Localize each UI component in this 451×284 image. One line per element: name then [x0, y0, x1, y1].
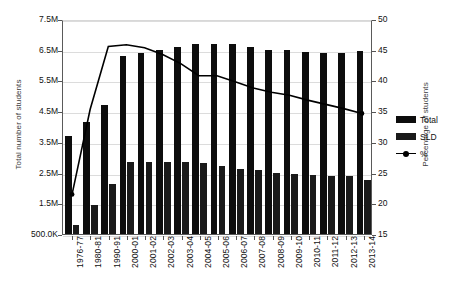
x-axis-tick-label: 2010-11 — [312, 236, 322, 267]
legend-item[interactable]: Total — [396, 112, 451, 127]
plot-area — [62, 20, 372, 235]
y-axis-right-tick-label: 25 — [378, 169, 387, 178]
y-axis-right-tick-label: 50 — [378, 15, 387, 24]
y-axis-left-tick-label: 5.5M — [8, 76, 58, 85]
legend-swatch-icon — [396, 133, 416, 140]
y-axis-left-tick-label: 500.0K — [8, 230, 58, 239]
x-axis-tick-label: 2007-08 — [257, 236, 267, 268]
percent-line-series — [63, 21, 371, 234]
y-axis-right-tick-label: 30 — [378, 138, 387, 147]
y-axis-left-tick-label: 1.5M — [8, 199, 58, 208]
y-axis-right-tick-label: 40 — [378, 76, 387, 85]
y-axis-left-tick-label: 3.5M — [8, 138, 58, 147]
y-axis-right-tick-label: 15 — [378, 230, 387, 239]
y-axis-left-tick-label: 6.5M — [8, 46, 58, 55]
y-axis-right-tick-label: 45 — [378, 46, 387, 55]
x-axis-tick-labels: 1976-771980-811990-912000-012001-022002-… — [62, 236, 372, 284]
x-axis-tick-label: 2005-06 — [221, 236, 231, 268]
x-axis-tick-label: 2004-05 — [203, 236, 213, 268]
x-axis-tick-label: 2008-09 — [276, 236, 286, 268]
legend-line-marker-icon — [396, 149, 416, 158]
legend-swatch-icon — [396, 116, 416, 123]
x-axis-tick-label: 1980-81 — [93, 236, 103, 268]
percent-line-path — [72, 45, 362, 195]
x-axis-tick-label: 2000-01 — [130, 236, 140, 268]
legend-item-label: Total — [420, 115, 438, 125]
chart-container: Total number of students Percentage of s… — [0, 0, 451, 284]
y-axis-left-tick-label: 4.5M — [8, 107, 58, 116]
chart-legend: TotalSLD% — [396, 112, 451, 163]
y-axis-right-tick-label: 20 — [378, 199, 387, 208]
legend-item[interactable]: % — [396, 146, 451, 161]
legend-item-label: % — [420, 149, 428, 159]
x-axis-tick-label: 2003-04 — [185, 236, 195, 268]
y-axis-right-tick-label: 35 — [378, 107, 387, 116]
x-axis-tick-label: 2009-10 — [294, 236, 304, 268]
x-axis-tick-label: 1990-91 — [112, 236, 122, 268]
legend-item-label: SLD — [420, 132, 437, 142]
y-axis-left-tick-label: 2.5M — [8, 169, 58, 178]
x-axis-tick-label: 2001-02 — [148, 236, 158, 268]
x-axis-tick-label: 2006-07 — [239, 236, 249, 268]
x-axis-tick-label: 2013-14 — [367, 236, 377, 268]
percent-marker — [360, 111, 365, 116]
x-axis-tick-label: 2011-12 — [330, 236, 340, 267]
x-axis-tick-label: 2012-13 — [349, 236, 359, 268]
y-axis-left-tick-label: 7.5M — [8, 15, 58, 24]
x-axis-tick-label: 2002-03 — [166, 236, 176, 268]
x-axis-tick-label: 1976-77 — [75, 236, 85, 268]
percent-marker — [70, 192, 75, 197]
legend-item[interactable]: SLD — [396, 129, 451, 144]
